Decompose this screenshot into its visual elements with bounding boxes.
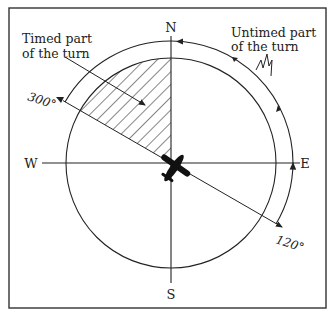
- untimed-label-line1: Untimed part: [231, 25, 316, 40]
- arc-arrow-north: [176, 39, 183, 45]
- squiggle-pointer: [256, 54, 272, 76]
- heading-120-label: 120°: [274, 233, 306, 255]
- heading-300-label: 300°: [26, 90, 58, 112]
- timed-label-line2: of the turn: [22, 46, 90, 61]
- untimed-arc-lower: [276, 163, 293, 224]
- timed-label-line1: Timed part: [22, 31, 92, 46]
- untimed-label-line2: of the turn: [231, 39, 299, 54]
- south-label: S: [167, 287, 176, 302]
- east-label: E: [300, 156, 310, 171]
- west-label: W: [24, 156, 38, 171]
- standard-rate-turn-diagram: N S W E Timed part of the turn Untimed p…: [0, 0, 333, 316]
- north-label: N: [165, 20, 176, 35]
- arc-arrow-ne: [232, 57, 238, 62]
